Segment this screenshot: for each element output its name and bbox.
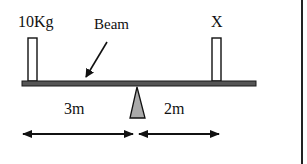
fulcrum-triangle-icon [130, 87, 145, 118]
left-mass-block [28, 38, 37, 81]
beam-label: Beam [94, 16, 129, 32]
right-mass-label: X [211, 13, 223, 30]
beam-diagram: 10Kg Beam X 3m 2m [0, 0, 307, 164]
right-mass-block [212, 38, 221, 81]
right-distance-label: 2m [164, 100, 185, 117]
beam-pointer-arrow-icon [86, 42, 107, 77]
left-mass-label: 10Kg [18, 13, 54, 31]
left-distance-label: 3m [64, 100, 85, 117]
diagram-svg: 10Kg Beam X 3m 2m [0, 0, 307, 164]
beam [22, 81, 256, 86]
